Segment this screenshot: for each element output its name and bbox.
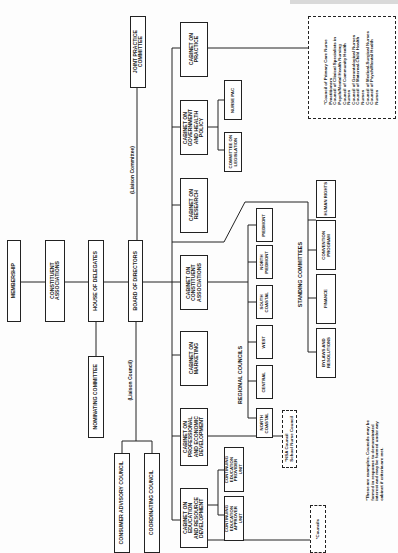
regional-council-west: WEST <box>256 325 273 359</box>
committee-legislation-label: COMMITTEE ON LEGISLATION <box>229 135 238 168</box>
cabinet-research-box: CABINET ON RESEARCH <box>180 178 208 233</box>
cabinet-professional-label: CABINET ON PROFESSIONAL AND ECONOMIC DEV… <box>183 416 205 457</box>
joint-practice-committee-box: JOINT PRACTICE COMMITTEE <box>130 16 146 88</box>
regional-councils-title: REGIONAL COUNCILS <box>236 330 246 420</box>
nominating-committee-label: NOMINATING COMMITTEE <box>93 364 98 430</box>
practice-councils-box: *Council of Primary Care Nurse Practitio… <box>308 16 396 119</box>
nsa-council-box: *NSA Council School Nurse Council <box>282 410 297 468</box>
standing-committee-finance: FINANCE <box>316 274 336 324</box>
house-of-delegates-label: HOUSE OF DELEGATES <box>93 251 98 311</box>
cabinet-research-label: CABINET ON RESEARCH <box>189 189 200 221</box>
councils-box: *Councils <box>310 505 326 553</box>
constituent-associations-label: CONSTITUENT ASSOCIATIONS <box>50 261 61 300</box>
regional-council-piedmont: PIEDMONT <box>256 208 273 242</box>
nsa-council-label: *NSA Council School Nurse Council <box>285 416 294 462</box>
cabinet-education-label: CABINET ON EDUCATION AND RESOURCE DEVELO… <box>183 497 205 539</box>
regional-council-south-coastal: SOUTH COASTAL <box>256 285 273 319</box>
board-of-directors-label: BOARD OF DIRECTORS <box>133 251 138 311</box>
house-of-delegates-box: HOUSE OF DELEGATES <box>88 240 104 322</box>
standing-committees-title: STANDING COMMITTEES <box>296 230 306 320</box>
cabinet-marketing-label: CABINET ON MARKETING <box>189 342 200 374</box>
ce-provider-box: CONTINUING EDUCATION PROVIDER UNIT <box>224 447 244 492</box>
membership-box: MEMBERSHIP <box>7 240 21 322</box>
coordinating-council-box: COORDINATING COUNCIL <box>144 453 160 553</box>
committee-legislation-box: COMMITTEE ON LEGISLATION <box>224 132 242 172</box>
ce-provider-label: CONTINUING EDUCATION PROVIDER UNIT <box>225 456 243 483</box>
regional-council-north-coastal: NORTH COASTAL <box>256 408 273 438</box>
constituent-associations-box: CONSTITUENT ASSOCIATIONS <box>45 240 65 322</box>
cabinet-government-label: CABINET ON GOVERNMENT AND HEALTH POLICY <box>183 109 205 146</box>
standing-committee-human-rights: HUMAN RIGHTS <box>316 180 336 218</box>
membership-label: MEMBERSHIP <box>11 263 16 298</box>
standing-committee-bylaws: BYLAWS AND RESOLUTIONS <box>316 328 336 378</box>
footnote-text: *These are examples. Councils may be for… <box>366 420 385 501</box>
liaison-council-label: (Liaison Council) <box>126 345 136 415</box>
cabinet-constituent-label: CABINET ON CONSTITUENT ASSOCIATIONS <box>186 263 202 302</box>
coordinating-council-label: COORDINATING COUNCIL <box>149 470 154 535</box>
cabinet-education-box: CABINET ON EDUCATION AND RESOURCE DEVELO… <box>180 488 208 548</box>
board-of-directors-box: BOARD OF DIRECTORS <box>128 240 143 322</box>
councils-label: *Councils <box>316 519 321 539</box>
joint-practice-committee-label: JOINT PRACTICE COMMITTEE <box>133 30 144 73</box>
standing-committee-convention: CONVENTION PROGRAM <box>316 220 336 270</box>
cabinet-professional-box: CABINET ON PROFESSIONAL AND ECONOMIC DEV… <box>180 408 208 466</box>
cabinet-constituent-box: CABINET ON CONSTITUENT ASSOCIATIONS <box>180 255 208 310</box>
cabinet-marketing-box: CABINET ON MARKETING <box>180 331 208 386</box>
ce-approver-box: CONTINUING EDUCATION APPROVER UNIT <box>224 496 244 541</box>
regional-council-north-piedmont: NORTH PIEDMONT <box>256 245 273 279</box>
practice-councils-list: *Council of Primary Care Nurse Practitio… <box>324 31 380 105</box>
ce-approver-label: CONTINUING EDUCATION APPROVER UNIT <box>225 505 243 532</box>
consumer-advisory-council-label: CONSUMER ADVISORY COUNCIL <box>119 461 124 544</box>
consumer-advisory-council-box: CONSUMER ADVISORY COUNCIL <box>114 453 130 553</box>
liaison-committee-label: (Liaison Committee) <box>128 130 138 210</box>
nurse-pac-box: NURSE PAC <box>224 80 242 120</box>
nurse-pac-label: NURSE PAC <box>231 88 236 113</box>
regional-council-central: CENTRAL <box>256 365 273 399</box>
cabinet-practice-label: CABINET ON PRACTICE <box>189 33 200 65</box>
cabinet-practice-box: CABINET ON PRACTICE <box>180 22 208 77</box>
cabinet-government-box: CABINET ON GOVERNMENT AND HEALTH POLICY <box>180 100 208 155</box>
footnote: *These are examples. Councils may be for… <box>355 415 395 505</box>
nominating-committee-box: NOMINATING COMMITTEE <box>88 356 104 438</box>
org-chart: MEMBERSHIP CONSTITUENT ASSOCIATIONS HOUS… <box>0 0 398 553</box>
